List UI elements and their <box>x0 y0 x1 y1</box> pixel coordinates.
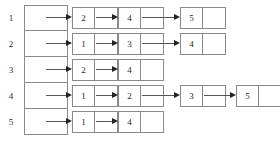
list-node: 4 <box>180 33 226 55</box>
node-pointer-cell <box>203 34 225 54</box>
vertex-index-label: 1 <box>4 5 18 31</box>
arrow-shaft <box>46 95 66 96</box>
arrow-shaft <box>46 43 66 44</box>
node-value: 4 <box>119 112 141 132</box>
vertex-index-label: 2 <box>4 31 18 57</box>
arrow-shaft <box>204 95 230 96</box>
arrow-shaft <box>96 43 112 44</box>
pointer-arrow <box>96 14 118 21</box>
node-value: 5 <box>237 86 259 106</box>
node-pointer-cell <box>141 60 163 80</box>
list-node: 5 <box>236 85 280 107</box>
pointer-arrow <box>204 92 236 99</box>
node-value: 1 <box>73 34 95 54</box>
arrow-shaft <box>96 121 112 122</box>
arrow-shaft <box>142 95 174 96</box>
arrow-shaft <box>46 17 66 18</box>
node-value: 3 <box>181 86 203 106</box>
node-value: 4 <box>119 8 141 28</box>
node-value: 1 <box>73 112 95 132</box>
pointer-arrow <box>46 118 72 125</box>
node-value: 5 <box>181 8 203 28</box>
node-pointer-cell <box>203 8 225 28</box>
node-value: 2 <box>73 60 95 80</box>
node-pointer-cell <box>141 112 163 132</box>
pointer-arrow <box>96 40 118 47</box>
node-pointer-cell <box>259 86 280 106</box>
pointer-arrow <box>96 118 118 125</box>
vertex-index-label: 4 <box>4 83 18 109</box>
node-value: 4 <box>181 34 203 54</box>
node-value: 4 <box>119 60 141 80</box>
vertex-index-label: 5 <box>4 109 18 135</box>
node-value: 2 <box>119 86 141 106</box>
list-node: 4 <box>118 111 164 133</box>
adjacency-list-diagram: 1234524513424123514 <box>0 0 280 159</box>
arrow-shaft <box>46 69 66 70</box>
arrow-shaft <box>96 69 112 70</box>
node-value: 3 <box>119 34 141 54</box>
arrow-shaft <box>142 17 174 18</box>
pointer-arrow <box>46 14 72 21</box>
list-node: 5 <box>180 7 226 29</box>
pointer-arrow <box>46 92 72 99</box>
arrow-shaft <box>142 43 174 44</box>
arrow-shaft <box>96 95 112 96</box>
pointer-arrow <box>96 66 118 73</box>
pointer-arrow <box>46 66 72 73</box>
arrow-shaft <box>96 17 112 18</box>
list-node: 4 <box>118 59 164 81</box>
node-value: 2 <box>73 8 95 28</box>
pointer-arrow <box>96 92 118 99</box>
pointer-arrow <box>142 40 180 47</box>
pointer-arrow <box>142 14 180 21</box>
pointer-arrow <box>142 92 180 99</box>
vertex-index-label: 3 <box>4 57 18 83</box>
node-value: 1 <box>73 86 95 106</box>
arrow-shaft <box>46 121 66 122</box>
pointer-arrow <box>46 40 72 47</box>
